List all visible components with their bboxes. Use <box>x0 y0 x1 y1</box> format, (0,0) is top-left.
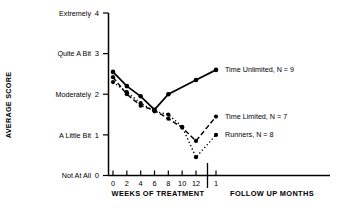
series-line-solid <box>113 70 216 110</box>
x-tick-label-6: 6 <box>152 179 156 188</box>
y-tick-label-3: Quite A Bit <box>57 49 91 58</box>
series-runners <box>111 80 218 159</box>
y-tick-label-1: A Little Bit <box>59 131 91 140</box>
data-point <box>139 101 143 105</box>
data-point <box>214 133 218 137</box>
x-tick-label-8: 8 <box>166 179 170 188</box>
data-point <box>111 80 115 84</box>
y-tick-number-2: 2 <box>95 90 99 99</box>
y-tick-number-0: 0 <box>95 171 99 180</box>
x-axis-tick-labels: 0246810121 <box>111 179 218 188</box>
data-point <box>152 109 156 113</box>
y-axis-tick-labels: 0Not At All1A Little Bit2Moderately3Quit… <box>55 9 99 181</box>
data-point <box>125 84 130 89</box>
data-point <box>111 75 115 79</box>
legend-label-runners: Runners, N = 8 <box>225 130 274 139</box>
y-tick-label-2: Moderately <box>55 90 91 99</box>
chart-container: 0Not At All1A Little Bit2Moderately3Quit… <box>0 0 339 212</box>
y-axis-ticks <box>103 13 109 176</box>
x-tick-label-4: 4 <box>139 179 143 188</box>
data-point <box>194 139 198 143</box>
x-axis-title: WEEKS OF TREATMENT <box>112 189 205 198</box>
data-point <box>214 114 218 118</box>
y-tick-label-0: Not At All <box>62 171 92 180</box>
data-point <box>214 68 219 73</box>
followup-axis-title: FOLLOW UP MONTHS <box>230 189 314 198</box>
data-point <box>180 125 184 129</box>
data-point <box>111 70 116 75</box>
data-point <box>166 92 171 97</box>
data-point <box>166 112 170 116</box>
y-tick-number-4: 4 <box>95 9 99 18</box>
x-tick-label-12: 12 <box>192 179 200 188</box>
chart-legend: Time Unlimited, N = 9Time Limited, N = 7… <box>225 65 294 139</box>
y-axis-title: AVERAGE SCORE <box>4 72 13 138</box>
y-tick-label-4: Extremely <box>59 9 91 18</box>
data-point <box>125 90 129 94</box>
data-point <box>194 155 198 159</box>
y-tick-number-1: 1 <box>95 131 99 140</box>
x-tick-label-10: 10 <box>178 179 186 188</box>
y-tick-number-3: 3 <box>95 49 99 58</box>
data-point <box>194 78 199 83</box>
x-tick-label-2: 2 <box>125 179 129 188</box>
x-tick-label-0: 0 <box>111 179 115 188</box>
legend-label-time-limited: Time Limited, N = 7 <box>225 112 287 121</box>
series-group <box>111 68 219 160</box>
data-point <box>138 94 143 99</box>
legend-label-time-unlimited: Time Unlimited, N = 9 <box>225 65 294 74</box>
average-score-line-chart: 0Not At All1A Little Bit2Moderately3Quit… <box>0 0 339 212</box>
followup-tick-label-1: 1 <box>214 179 218 188</box>
series-time-unlimited <box>111 68 219 112</box>
data-point <box>166 117 170 121</box>
